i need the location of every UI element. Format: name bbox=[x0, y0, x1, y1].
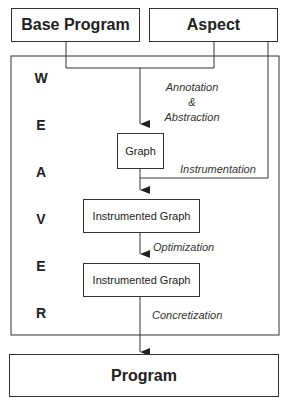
instrumented-graph-label-2: Instrumented Graph bbox=[93, 274, 191, 286]
instrumented-graph-label-1: Instrumented Graph bbox=[93, 210, 191, 222]
program-label: Program bbox=[111, 367, 177, 385]
instrumented-graph-box-1: Instrumented Graph bbox=[83, 199, 200, 233]
base-program-box: Base Program bbox=[11, 8, 140, 42]
graph-box: Graph bbox=[117, 133, 164, 169]
weaver-letter-e2: E bbox=[31, 258, 51, 274]
base-program-label: Base Program bbox=[21, 16, 130, 34]
weaver-letter-v: V bbox=[31, 211, 51, 227]
optimization-label: Optimization bbox=[153, 241, 214, 253]
program-box: Program bbox=[9, 354, 279, 397]
instrumented-graph-box-2: Instrumented Graph bbox=[83, 263, 200, 297]
instrumentation-label: Instrumentation bbox=[180, 163, 256, 175]
aspect-label: Aspect bbox=[187, 16, 240, 34]
weaver-letter-r: R bbox=[31, 305, 51, 321]
concretization-label: Concretization bbox=[152, 309, 222, 321]
aspect-box: Aspect bbox=[149, 8, 278, 42]
weaver-letter-e1: E bbox=[31, 117, 51, 133]
graph-label: Graph bbox=[125, 145, 156, 157]
annotation-abstraction-label: Annotation & Abstraction bbox=[152, 80, 232, 125]
weaver-letter-a: A bbox=[31, 164, 51, 180]
weaver-letter-w: W bbox=[31, 70, 51, 86]
